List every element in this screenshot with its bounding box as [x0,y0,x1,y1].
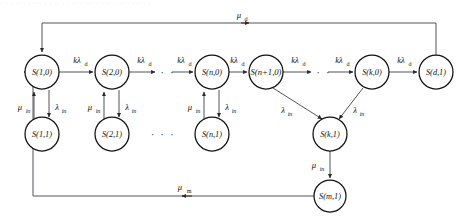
edge-label-mu-in-2: μ in [87,102,101,114]
diagram-canvas: S(1,0) S(2,0) S(n,0) S(n+1,0) S(k,0) S(d… [0,0,465,217]
edge-label-text: μ [187,102,193,112]
edge-label-text: kλ [177,55,185,65]
edge-label-mu-in-1: μ in [17,102,31,114]
edge-label-lambda-in-diag-left: λ in [280,105,292,117]
ellipsis-top-1: · · · [151,66,176,78]
edge-label-sub: d [84,61,87,67]
node-label: S(n+1,0) [251,68,282,77]
node-s-2-1[interactable]: S(2,1) [95,117,129,151]
edge-label-k-lambda-d-7: kλ d [397,55,411,67]
edge-label-text: μ [87,102,93,112]
edge-label-mu-d: μ d [236,10,248,22]
edge-label-text: kλ [291,55,299,65]
edge-label-sub: in [196,108,201,114]
edge-label-sub: d [148,61,151,67]
edge-label-k-lambda-d-1: kλ d [73,55,87,67]
edge-label-text: kλ [335,55,343,65]
node-label: S(n,0) [202,68,222,77]
node-label: S(k,0) [362,68,382,77]
edge-label-text: μ [236,10,242,20]
edge-label-k-lambda-d-6: kλ d [335,55,349,67]
edge-label-mu-in-3: μ in [187,102,201,114]
edge-label-text: λ [224,102,229,112]
node-s-n-0[interactable]: S(n,0) [195,55,229,89]
edge-label-sub: in [232,108,237,114]
node-s-m-1[interactable]: S(m,1) [314,180,346,212]
edge-label-text: kλ [230,55,238,65]
edge-label-sub: d [346,61,349,67]
edge-label-text: kλ [73,55,81,65]
state-transition-diagram: · · · ·· · · ··· · · ·· · · ·· · ··· · ·… [0,0,465,217]
node-s-n1-0[interactable]: S(n+1,0) [249,55,283,89]
edge-label-k-lambda-d-2: kλ d [137,55,151,67]
node-s-d-1[interactable]: S(d,1) [419,55,453,89]
edge-label-lambda-in-3: λ in [224,102,236,114]
node-s-k-0[interactable]: S(k,0) [355,55,389,89]
edge-label-sub: in [320,166,325,172]
node-label: S(1,1) [32,130,52,139]
node-label: S(2,1) [102,130,122,139]
edge-label-text: μ [311,160,317,170]
node-s-n-1[interactable]: S(n,1) [195,117,229,151]
edge-mu-d-feedback [42,23,436,55]
node-s-2-0[interactable]: S(2,0) [95,55,129,89]
edge-label-lambda-in-2: λ in [124,102,136,114]
edge-label-text: μ [177,182,183,192]
node-s-k-1[interactable]: S(k,1) [313,117,347,151]
edge-label-text: λ [352,105,357,115]
edge-label-sub: in [96,108,101,114]
edge-label-k-lambda-d-5: kλ d [291,55,305,67]
edge-label-sub: in [360,111,365,117]
edge-label-sub: in [288,111,293,117]
node-label: S(2,0) [102,68,122,77]
edge-label-sub: d [188,61,191,67]
edge-label-text: λ [124,102,129,112]
node-label: S(d,1) [426,68,446,77]
edge-label-k-lambda-d-4: kλ d [230,55,244,67]
edge-label-sub: d [408,61,411,67]
edge-label-lambda-in-diag-right: λ in [352,105,364,117]
edge-label-text: kλ [137,55,145,65]
edge-label-sub: m [187,188,192,194]
edge-label-mu-m: μ m [177,182,192,194]
edge-label-sub: in [62,108,67,114]
edge-label-mu-in-4: μ in [311,160,325,172]
ellipsis-second-1: · · · [151,128,176,140]
edge-label-sub: in [132,108,137,114]
edge-label-sub: d [244,16,247,22]
edge-label-text: μ [17,102,23,112]
edge-label-text: λ [54,102,59,112]
node-label: S(n,1) [202,130,222,139]
ellipsis-top-2: · · · [307,66,332,78]
node-s-1-1[interactable]: S(1,1) [25,117,59,151]
edge-label-k-lambda-d-3: kλ d [177,55,191,67]
edge-label-sub: d [302,61,305,67]
node-label: S(m,1) [319,192,341,201]
node-label: S(k,1) [320,130,340,139]
edge-label-text: kλ [397,55,405,65]
edge-label-sub: in [26,108,31,114]
edge-label-text: λ [280,105,285,115]
edge-label-lambda-in-1: λ in [54,102,66,114]
node-s-1-0[interactable]: S(1,0) [25,55,59,89]
edge-label-sub: d [241,61,244,67]
node-label: S(1,0) [32,68,52,77]
